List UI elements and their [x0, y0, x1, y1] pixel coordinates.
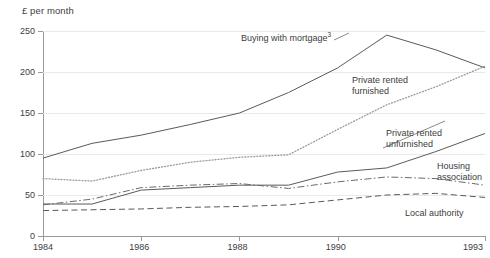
y-axis-tick — [38, 72, 43, 73]
y-axis-tick — [38, 154, 43, 155]
gridline — [43, 113, 485, 114]
gridline — [43, 154, 485, 155]
y-axis-labels: 050100150200250 — [0, 0, 35, 258]
gridline — [43, 72, 485, 73]
series-label-buying-with-mortgage: Buying with mortgage3 — [241, 33, 331, 44]
y-axis-tick — [38, 113, 43, 114]
x-axis-tick-label: 1988 — [227, 243, 247, 252]
y-axis-tick — [38, 31, 43, 32]
y-axis-tick-label: 150 — [5, 109, 35, 118]
series-label-housing-association: Housing association — [437, 161, 482, 182]
gridline — [43, 195, 485, 196]
gridline — [43, 31, 485, 32]
y-axis-tick-label: 50 — [5, 191, 35, 200]
footnote-marker: 3 — [328, 31, 332, 38]
series-label-local-authority: Local authority — [405, 208, 464, 219]
x-axis-tick — [43, 236, 44, 241]
x-axis-line — [43, 236, 485, 237]
y-axis-tick-label: 0 — [5, 232, 35, 241]
series-label-private-rented-unfurnished: Private rented unfurnished — [386, 128, 442, 149]
x-axis-tick — [338, 236, 339, 241]
x-axis-tick — [239, 236, 240, 241]
chart-container: £ per month 050100150200250 Buying with … — [0, 0, 490, 258]
y-axis-tick — [38, 195, 43, 196]
series-label-private-rented-furnished: Private rented furnished — [352, 75, 408, 96]
y-axis-tick-label: 200 — [5, 68, 35, 77]
x-axis-tick-label: 1984 — [33, 243, 53, 252]
x-axis-tick-label: 1986 — [129, 243, 149, 252]
x-axis-tick-label: 1990 — [326, 243, 346, 252]
x-axis-tick — [485, 236, 486, 241]
y-axis-tick-label: 100 — [5, 150, 35, 159]
x-axis-tick — [141, 236, 142, 241]
y-axis-tick-label: 250 — [5, 27, 35, 36]
x-axis-tick-label: 1993 — [463, 243, 483, 252]
